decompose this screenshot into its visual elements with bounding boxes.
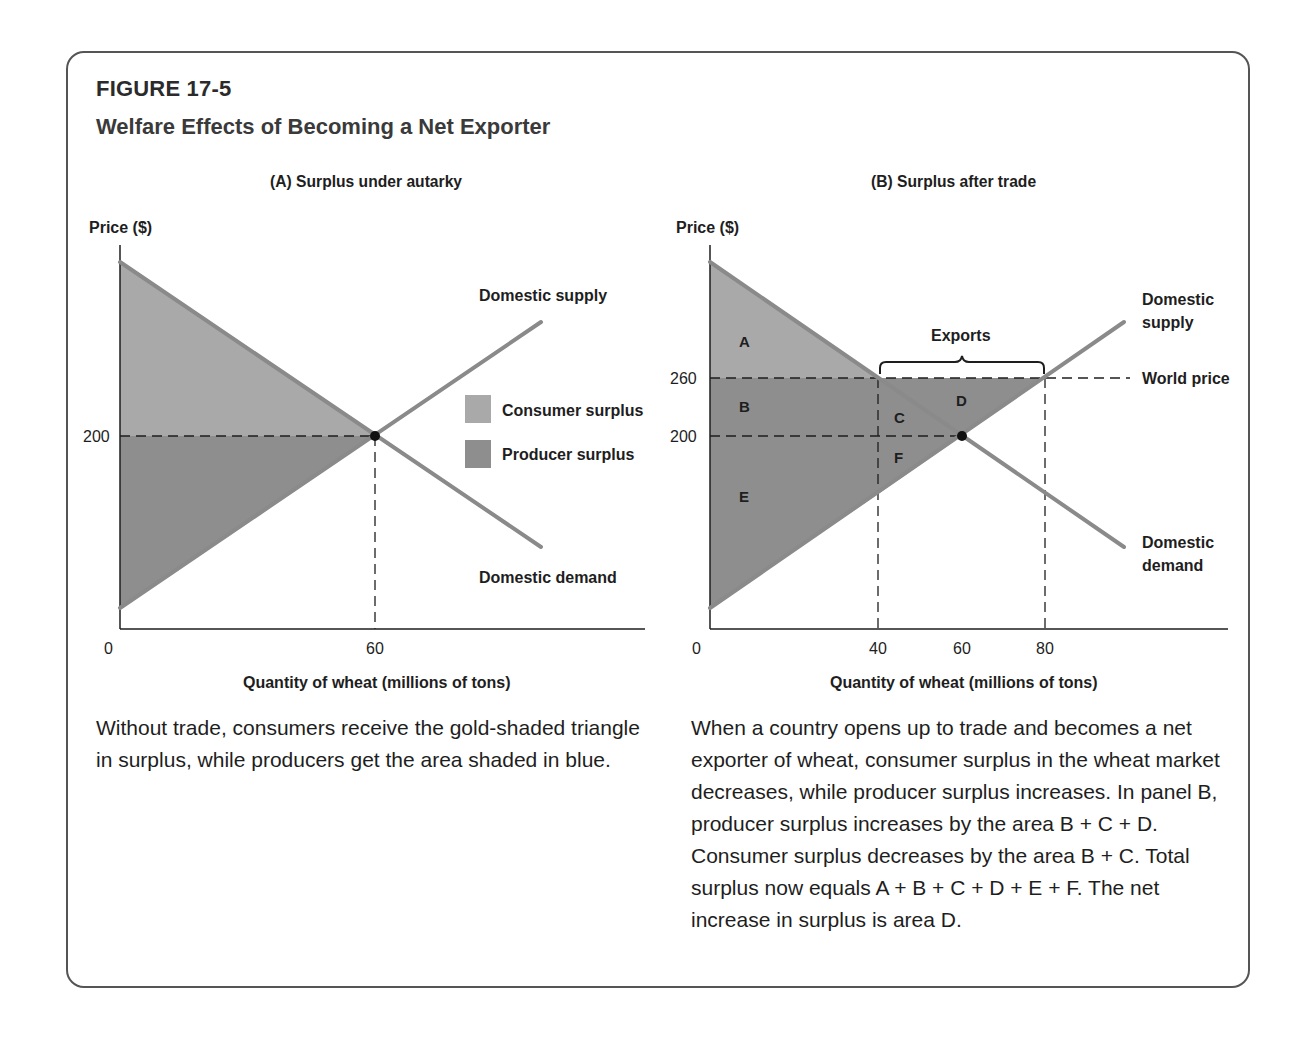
panel-a-caption: Without trade, consumers receive the gol… [96,712,651,776]
area-label-b: B [739,398,750,415]
area-label-d: D [956,392,967,409]
area-label-f: F [894,449,903,466]
panel-a-y-tick-200: 200 [83,428,110,445]
area-b-e [710,378,878,608]
equilibrium-point [370,431,380,441]
exports-brace [880,356,1044,374]
exports-label: Exports [931,327,991,344]
area-label-a: A [739,333,750,350]
equilibrium-point-b [957,431,967,441]
panel-a-demand-label: Domestic demand [479,569,617,586]
area-label-e: E [739,488,749,505]
panel-b-caption: When a country opens up to trade and bec… [691,712,1241,936]
panel-b-y-tick-200: 200 [670,428,697,445]
panel-a-supply-label: Domestic supply [479,287,607,304]
legend-consumer-swatch [465,395,491,423]
panel-b-y-label: Price ($) [676,219,739,236]
panel-b-x-tick-80: 80 [1036,640,1054,657]
panel-b-x-tick-60: 60 [953,640,971,657]
panel-a-y-label: Price ($) [89,219,152,236]
panel-b-demand-label-2: demand [1142,557,1203,574]
area-label-c: C [894,409,905,426]
legend-producer-swatch [465,440,491,468]
legend-consumer-label: Consumer surplus [502,402,643,419]
panel-b-x-label: Quantity of wheat (millions of tons) [830,674,1098,691]
panel-b-supply-label-1: Domestic [1142,291,1214,308]
panel-a-x-tick-0: 0 [104,640,113,657]
panel-b-x-tick-40: 40 [869,640,887,657]
panel-b-y-tick-260: 260 [670,370,697,387]
panel-a-x-label: Quantity of wheat (millions of tons) [243,674,511,691]
panel-b-supply-label-2: supply [1142,314,1194,331]
panel-a-x-tick-60: 60 [366,640,384,657]
panel-b-demand-label-1: Domestic [1142,534,1214,551]
legend-producer-label: Producer surplus [502,446,635,463]
panel-b-x-tick-0: 0 [692,640,701,657]
world-price-label: World price [1142,370,1230,387]
